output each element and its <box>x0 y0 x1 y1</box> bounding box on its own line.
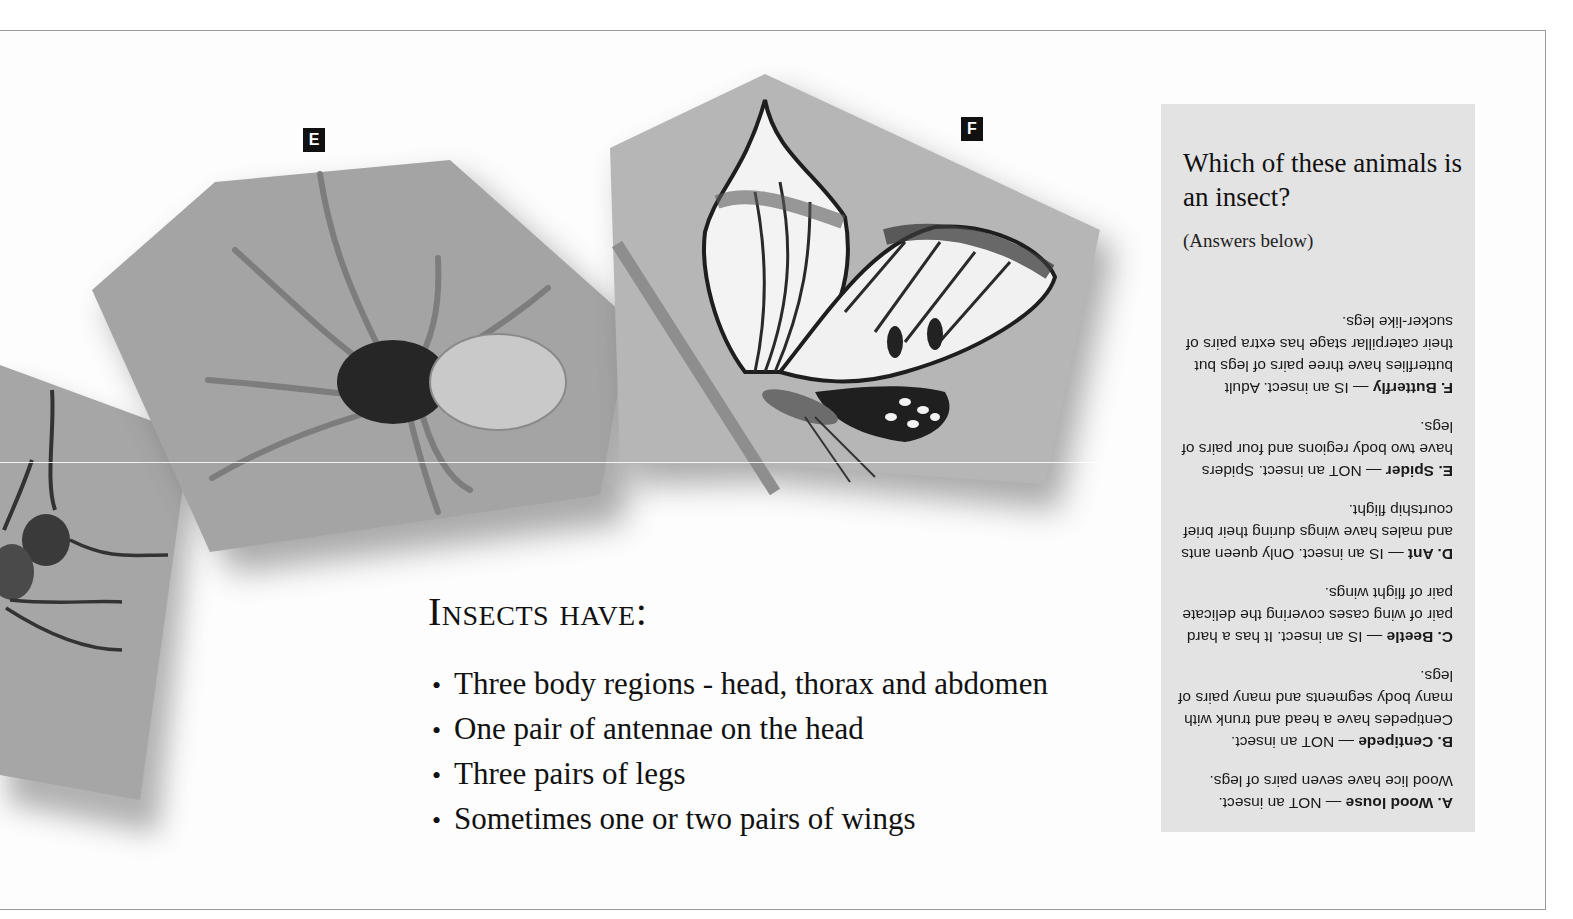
feature-item: •Three body regions - head, thorax and a… <box>432 662 1048 707</box>
quiz-subtitle: (Answers below) <box>1183 230 1313 252</box>
feature-text: One pair of antennae on the head <box>454 711 864 746</box>
answer-item: D. Ant — IS an insect. Only queen ants a… <box>1175 499 1453 565</box>
feature-text: Three body regions - head, thorax and ab… <box>454 666 1048 701</box>
answer-name: F. Butterfly <box>1373 380 1453 397</box>
insects-have-heading: Insects have: <box>428 588 647 635</box>
bullet-icon: • <box>432 799 454 842</box>
insect-features-list: •Three body regions - head, thorax and a… <box>432 662 1048 842</box>
upside-down-answers: A. Wood louse — NOT an insect. Wood lice… <box>1161 274 1475 814</box>
bullet-icon: • <box>432 709 454 752</box>
butterfly-panel <box>605 72 1115 522</box>
feature-item: •Three pairs of legs <box>432 752 1048 797</box>
label-e: E <box>303 128 325 152</box>
answer-name: C. Beetle <box>1387 629 1453 646</box>
butterfly-illustration-icon <box>605 72 1115 522</box>
answer-item: A. Wood louse — NOT an insect. Wood lice… <box>1175 770 1453 814</box>
answer-name: E. Spider <box>1386 463 1453 480</box>
feature-text: Sometimes one or two pairs of wings <box>454 801 916 836</box>
label-f: F <box>961 117 983 141</box>
feature-text: Three pairs of legs <box>454 756 686 791</box>
feature-item: •One pair of antennae on the head <box>432 707 1048 752</box>
answer-item: B. Centipede — NOT an insect. Centipedes… <box>1175 665 1453 753</box>
feature-item: •Sometimes one or two pairs of wings <box>432 797 1048 842</box>
answer-item: C. Beetle — IS an insect. It has a hard … <box>1175 582 1453 648</box>
bullet-icon: • <box>432 664 454 707</box>
answer-name: B. Centipede <box>1358 734 1453 751</box>
answer-item: F. Butterfly — IS an insect. Adult butte… <box>1175 311 1453 399</box>
answer-name: D. Ant <box>1408 546 1453 563</box>
answer-item: E. Spider — NOT an insect. Spiders have … <box>1175 416 1453 482</box>
quiz-title: Which of these animals is an insect? <box>1183 146 1463 214</box>
bullet-icon: • <box>432 754 454 797</box>
spider-panel <box>90 160 650 580</box>
answer-name: A. Wood louse <box>1346 795 1453 812</box>
spider-photo-icon <box>90 160 650 580</box>
quiz-answer-box: Which of these animals is an insect? (An… <box>1161 104 1475 832</box>
fold-line <box>0 462 1160 463</box>
